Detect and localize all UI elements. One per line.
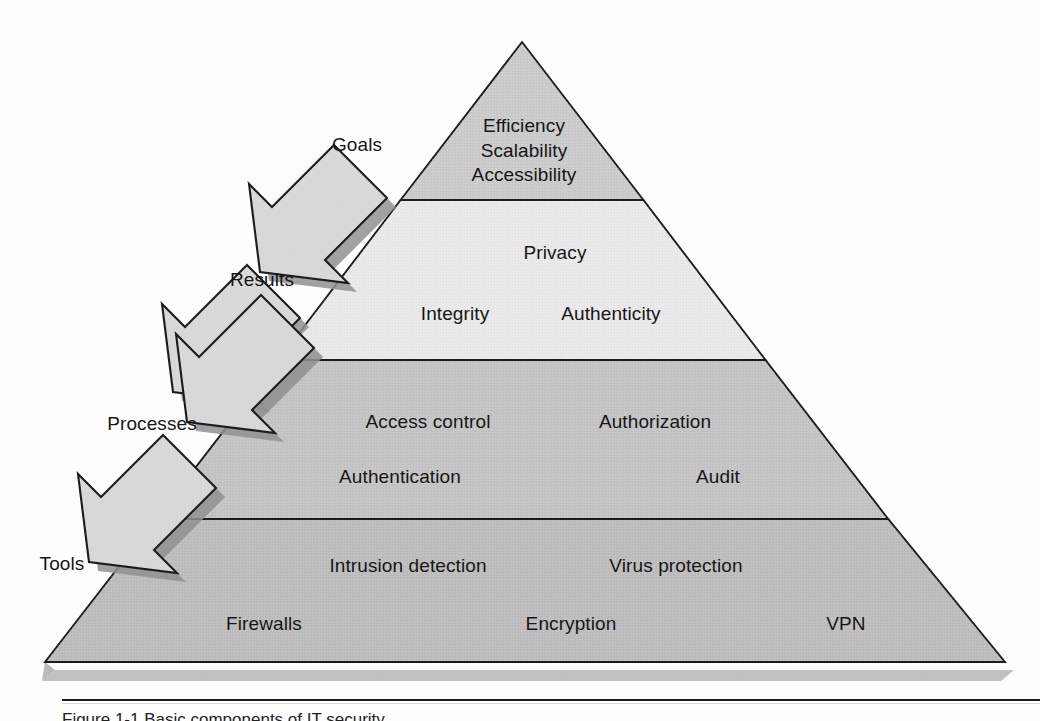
pyramid-canvas [0,0,1040,721]
results-item-privacy: Privacy [524,240,587,265]
goals-item-scalability: Scalability [472,139,577,164]
tools-item-intrusion-detection: Intrusion detection [329,553,486,578]
tier-goals-text: Efficiency Scalability Accessibility [472,114,577,188]
tools-item-firewalls: Firewalls [226,611,302,636]
caption-divider [62,699,1040,701]
tools-item-virus-protection: Virus protection [609,553,742,578]
arrow-label-tools: Tools [40,553,85,575]
pyramid-shadow [42,662,1014,681]
arrow-label-results: Results [230,269,294,291]
goals-item-efficiency: Efficiency [472,114,577,139]
figure-caption: Figure 1-1 Basic components of IT securi… [62,710,1040,721]
processes-item-authorization: Authorization [599,409,711,434]
goals-item-accessibility: Accessibility [472,163,577,188]
results-item-integrity: Integrity [421,301,490,326]
arrow-label-goals: Goals [332,134,382,156]
tools-item-vpn: VPN [826,611,865,636]
tools-item-encryption: Encryption [526,611,617,636]
results-item-authenticity: Authenticity [561,301,660,326]
pyramid-tier-tools[interactable] [45,519,1005,662]
arrow-label-processes: Processes [107,413,197,435]
processes-item-audit: Audit [696,464,740,489]
security-pyramid-figure: Efficiency Scalability Accessibility Pri… [0,0,1040,721]
processes-item-access-control: Access control [366,409,491,434]
processes-item-authentication: Authentication [339,464,461,489]
